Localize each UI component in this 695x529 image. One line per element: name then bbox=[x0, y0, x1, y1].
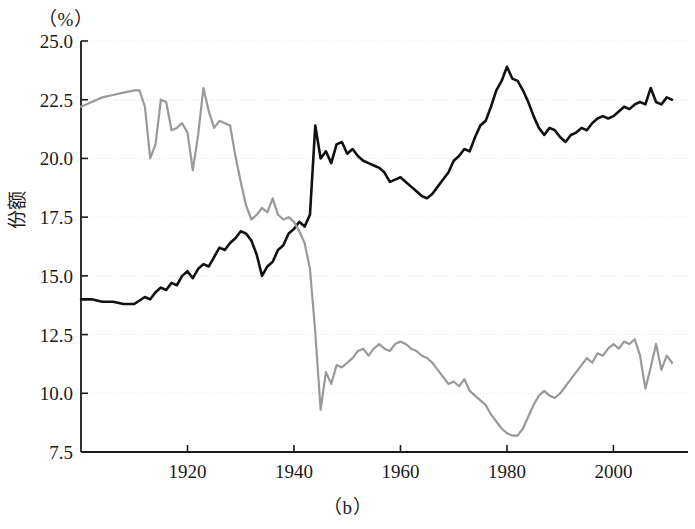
figure-caption: （b） bbox=[0, 492, 695, 519]
y-tick-label: 25.0 bbox=[15, 32, 73, 51]
x-tick-label: 1960 bbox=[360, 462, 440, 481]
y-tick-label: 17.5 bbox=[15, 208, 73, 227]
y-tick-label: 15.0 bbox=[15, 267, 73, 286]
x-tick-label: 1940 bbox=[254, 462, 334, 481]
x-tick-label: 2000 bbox=[573, 462, 653, 481]
series-layer bbox=[81, 67, 672, 436]
y-tick-label: 10.0 bbox=[15, 384, 73, 403]
gridlines bbox=[81, 41, 688, 393]
y-tick-label: 7.5 bbox=[15, 443, 73, 462]
gray-series bbox=[81, 88, 672, 436]
plot-area: 7.510.012.515.017.520.022.525.0 19201940… bbox=[0, 0, 695, 529]
y-tick-label: 20.0 bbox=[15, 149, 73, 168]
x-tick-label: 1920 bbox=[147, 462, 227, 481]
black-series bbox=[81, 67, 672, 304]
line-chart-svg bbox=[0, 0, 695, 529]
x-tick-label: 1980 bbox=[467, 462, 547, 481]
figure-panel: （%） 份额 7.510.012.515.017.520.022.525.0 1… bbox=[0, 0, 695, 529]
y-tick-label: 12.5 bbox=[15, 326, 73, 345]
y-tick-label: 22.5 bbox=[15, 91, 73, 110]
